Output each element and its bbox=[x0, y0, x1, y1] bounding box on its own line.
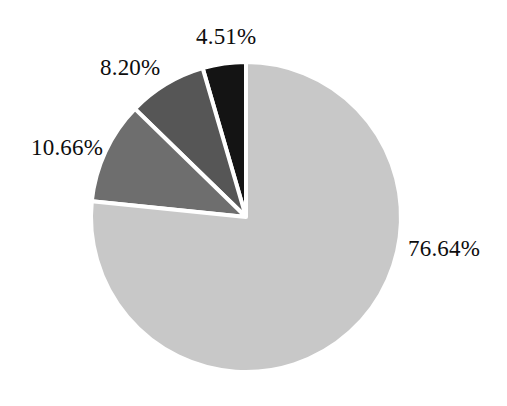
slice-label-2: 10.66% bbox=[31, 136, 103, 159]
slice-label-0: 4.51% bbox=[196, 25, 256, 48]
pie-chart-canvas bbox=[0, 0, 507, 406]
slice-label-3: 76.64% bbox=[408, 237, 480, 260]
pie-slices-group bbox=[91, 62, 401, 372]
pie-chart: 4.51% 8.20% 10.66% 76.64% bbox=[0, 0, 507, 406]
slice-label-1: 8.20% bbox=[100, 56, 160, 79]
